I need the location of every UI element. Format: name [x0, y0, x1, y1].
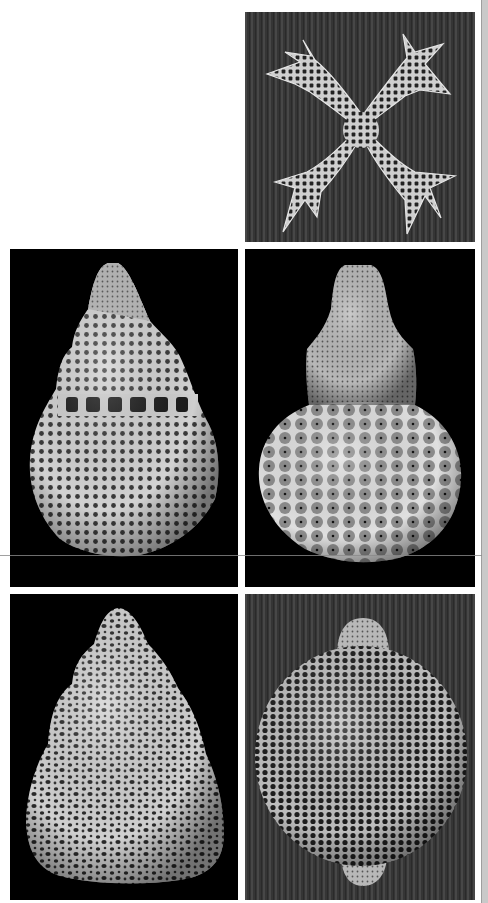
scan-artifact-line — [0, 555, 482, 556]
page-edge-strip — [481, 0, 488, 903]
micrograph-cross-specimen: Cross-shaped four-armed lattice skeleton — [245, 12, 475, 242]
micrograph-conical-perforated-specimen: Conical skeleton with irregular perforat… — [10, 594, 238, 900]
micrograph-spherical-specimen: Spherical lattice skeleton with polar tu… — [245, 594, 475, 900]
micrograph-conical-spiny-specimen: Conical multi-segmented porous skeleton … — [10, 249, 238, 587]
micrograph-pear-shaped-specimen: Pear-shaped skeleton with tapered apex a… — [245, 249, 475, 587]
